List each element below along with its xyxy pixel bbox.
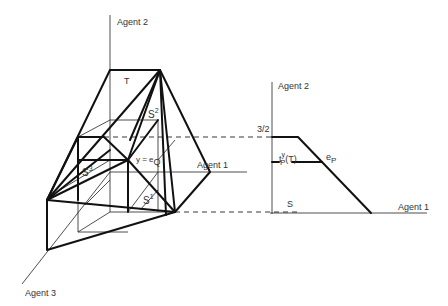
left-3d-diagram: Agent 2 Agent 1 Agent 3 T S2 S3 S1 y = e… — [22, 15, 298, 298]
agent1-label-3d: Agent 1 — [197, 160, 228, 170]
right-2d-diagram: Agent 2 Agent 1 3/2 S tyP(T) eP — [257, 81, 429, 214]
region-S1-label: S1 — [143, 193, 154, 206]
region-S2-label: S2 — [148, 107, 159, 120]
polytope-edges — [47, 70, 210, 250]
region-S3-label: S3 — [82, 165, 93, 178]
diagram-canvas: Agent 2 Agent 1 Agent 3 T S2 S3 S1 y = e… — [0, 0, 448, 306]
center-eQ-label: y = eQ — [136, 155, 161, 167]
region-T-label: T — [124, 76, 130, 86]
agent2-label-2d: Agent 2 — [278, 81, 309, 91]
agent3-label-3d: Agent 3 — [25, 288, 56, 298]
diagram-svg: Agent 2 Agent 1 Agent 3 T S2 S3 S1 y = e… — [0, 0, 448, 306]
tP-label: tyP(T) — [279, 151, 297, 167]
region-S-label: S — [287, 199, 293, 209]
agent3-axis-3d — [22, 172, 110, 284]
eP-label: eP — [326, 152, 336, 165]
tick-3-2: 3/2 — [257, 124, 270, 134]
agent1-label-2d: Agent 1 — [398, 202, 429, 212]
agent2-label-3d: Agent 2 — [117, 17, 148, 27]
